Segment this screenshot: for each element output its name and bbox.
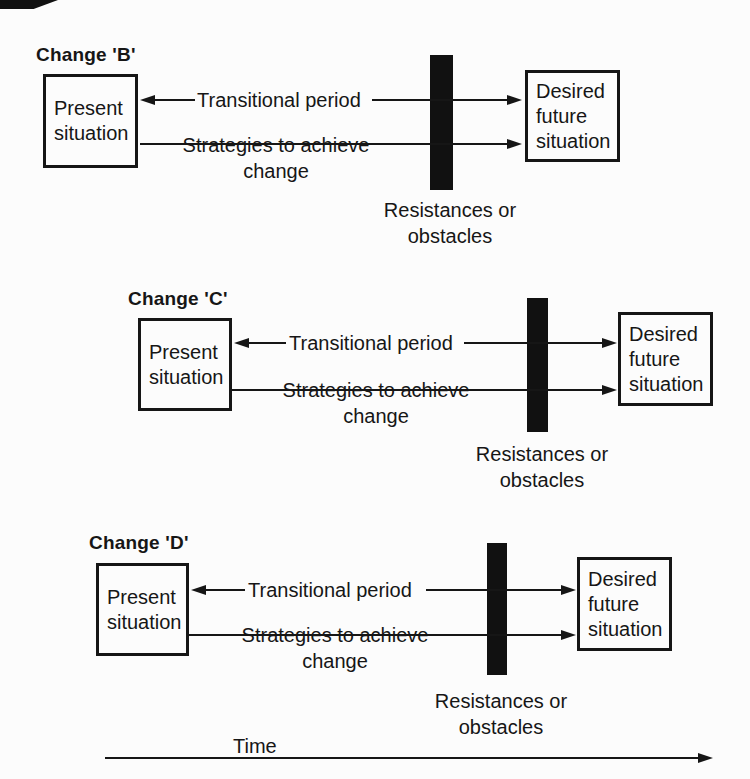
desired-future-box-c: Desired future situation <box>618 312 713 406</box>
arrowhead-right-icon <box>602 385 617 395</box>
arrowhead-right-icon <box>561 585 576 595</box>
transitional-line-left-b <box>153 99 195 101</box>
arrowhead-right-icon <box>561 630 576 640</box>
desired-future-box-d: Desired future situation <box>577 557 672 651</box>
section-title-b: Change 'B' <box>36 45 136 65</box>
section-title-d: Change 'D' <box>89 533 189 553</box>
arrowhead-right-icon <box>507 95 522 105</box>
transitional-period-label-d: Transitional period <box>248 580 412 600</box>
transitional-line-left-c <box>247 342 286 344</box>
scan-artifact <box>0 0 58 9</box>
desired-future-label-d: Desired future situation <box>580 567 663 642</box>
desired-future-box-b: Desired future situation <box>525 70 620 162</box>
resistance-bar-b <box>430 55 453 190</box>
present-situation-label-b: Present situation <box>46 96 129 146</box>
strategies-label-d: Strategies to achieve change <box>237 622 433 674</box>
resistance-bar-c <box>527 298 548 432</box>
transitional-period-label-b: Transitional period <box>197 90 361 110</box>
resistances-label-d: Resistances or obstacles <box>421 688 581 740</box>
desired-future-label-b: Desired future situation <box>528 79 611 154</box>
time-label: Time <box>233 736 277 756</box>
transitional-period-label-c: Transitional period <box>289 333 453 353</box>
transitional-line-left-d <box>204 589 245 591</box>
strategies-label-c: Strategies to achieve change <box>278 377 474 429</box>
arrowhead-right-icon <box>698 753 713 763</box>
present-situation-label-c: Present situation <box>141 340 224 390</box>
present-situation-box-b: Present situation <box>43 74 138 168</box>
time-line <box>105 757 700 759</box>
desired-future-label-c: Desired future situation <box>621 322 704 397</box>
resistances-label-b: Resistances or obstacles <box>370 197 530 249</box>
diagram-page: Change 'B' Present situation Desired fut… <box>0 0 750 779</box>
arrowhead-right-icon <box>507 139 522 149</box>
arrowhead-right-icon <box>602 338 617 348</box>
present-situation-label-d: Present situation <box>99 585 182 635</box>
transitional-line-right-b <box>372 99 510 101</box>
section-title-c: Change 'C' <box>128 289 228 309</box>
resistance-bar-d <box>487 543 507 675</box>
transitional-line-right-d <box>426 589 562 591</box>
present-situation-box-d: Present situation <box>96 563 189 656</box>
resistances-label-c: Resistances or obstacles <box>462 441 622 493</box>
present-situation-box-c: Present situation <box>138 318 232 411</box>
strategies-label-b: Strategies to achieve change <box>178 132 374 184</box>
transitional-line-right-c <box>464 342 604 344</box>
